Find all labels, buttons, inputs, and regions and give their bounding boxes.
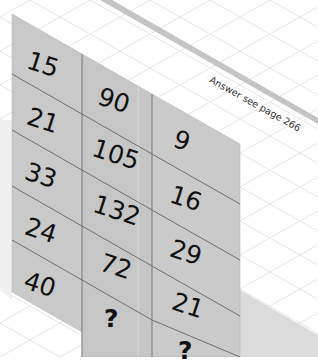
left-shadow	[0, 120, 12, 300]
cell-c2-r5-unknown: ?	[104, 304, 119, 333]
cell-c3-r5-unknown: ?	[178, 336, 193, 363]
